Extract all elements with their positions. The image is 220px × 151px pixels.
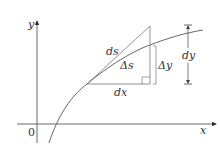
dy-label: dy <box>182 50 195 61</box>
arc-length-diagram: y x 0 ds Δs Δy dx dy <box>0 0 220 151</box>
right-angle-mark <box>142 77 150 84</box>
delta-y-bracket <box>153 46 156 84</box>
delta-s-label: Δs <box>120 60 134 71</box>
ds-label: ds <box>106 46 119 57</box>
delta-y-label: Δy <box>158 60 172 71</box>
x-axis-label: x <box>200 125 206 136</box>
origin-label: 0 <box>28 127 35 138</box>
dx-label: dx <box>114 87 127 98</box>
y-axis-label: y <box>28 19 34 30</box>
